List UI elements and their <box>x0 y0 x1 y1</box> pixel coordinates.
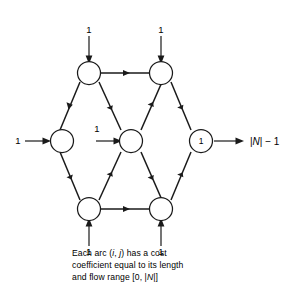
supply-arrow-bottom-left <box>86 218 93 246</box>
node-center[interactable] <box>120 130 143 153</box>
arc-left-to-bottom-left <box>60 152 80 200</box>
arc-top-left-to-left <box>60 82 80 130</box>
arc-bottom-left-to-center <box>99 152 121 200</box>
arc-center-to-bottom-right <box>141 152 162 200</box>
node-bottom-right[interactable] <box>150 198 173 221</box>
caption-l1-pre: Each arc ( <box>72 248 112 258</box>
network-flow-figure: 1 1 1 1 1 1 1 |N| − 1 Each arc (i, j) ha… <box>0 0 288 286</box>
node-top-right[interactable] <box>150 62 173 85</box>
node-right[interactable]: 1 <box>190 130 213 153</box>
supply-arrow-center <box>96 138 122 145</box>
caption-l3-post: |] <box>153 272 158 282</box>
arc-top-right-to-right <box>171 82 191 130</box>
network-diagram-svg: 1 1 1 1 1 1 1 |N| − 1 <box>0 0 288 286</box>
node-top-left[interactable] <box>78 62 101 85</box>
sink-label: |N| − 1 <box>250 136 280 147</box>
arc-bottom-left-to-bottom-right <box>100 206 150 212</box>
caption-line-3: and flow range [0, |N|] <box>72 272 158 282</box>
caption-line-2: coefficient equal to its length <box>72 260 183 270</box>
caption-l1-post: ) has a cost <box>121 248 167 258</box>
supply-arrow-top-left <box>86 36 93 64</box>
arc-center-to-top-right <box>141 82 162 130</box>
arc-top-left-to-top-right <box>100 70 150 76</box>
figure-caption: Each arc (i, j) has a cost coefficient e… <box>72 247 242 284</box>
arc-bottom-right-to-right <box>171 152 191 200</box>
supply-label-top-right: 1 <box>158 24 163 35</box>
node-right-label: 1 <box>199 136 204 146</box>
supply-label-center: 1 <box>94 123 99 134</box>
caption-l3-pre: and flow range [0, | <box>72 272 147 282</box>
caption-line-1: Each arc (i, j) has a cost <box>72 248 167 258</box>
supply-label-left: 1 <box>15 135 20 146</box>
supply-arrow-bottom-right <box>158 218 165 246</box>
node-left[interactable] <box>51 130 74 153</box>
sink-arrow-right <box>214 138 244 145</box>
supply-arrow-top-right <box>158 36 165 64</box>
supply-arrow-left <box>25 138 51 145</box>
arc-top-left-to-center <box>99 82 121 130</box>
supply-label-top-left: 1 <box>86 24 91 35</box>
node-bottom-left[interactable] <box>78 198 101 221</box>
sink-label-suffix: | − 1 <box>260 136 280 147</box>
